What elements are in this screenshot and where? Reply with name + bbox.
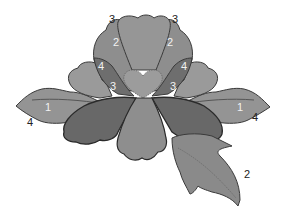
label-leaf-bottom-2: 2 (244, 168, 250, 180)
label-petal-right-2: 2 (167, 36, 173, 48)
bottom-leaf (172, 134, 240, 206)
label-side-left-4: 4 (98, 60, 104, 72)
label-inner-left-3: 3 (110, 80, 116, 92)
label-side-right-4: 4 (181, 60, 187, 72)
label-petal-left-2: 2 (113, 36, 119, 48)
label-leaf-left-1: 1 (45, 101, 51, 113)
label-top-right-3: 3 (172, 13, 178, 25)
label-inner-right-3: 3 (170, 80, 176, 92)
label-leaf-right-1: 1 (237, 101, 243, 113)
label-leaf-right-4: 4 (252, 111, 258, 123)
label-leaf-left-4: 4 (27, 116, 33, 128)
label-top-left-3: 3 (109, 13, 115, 25)
flower-diagram: 3 3 2 2 4 4 3 3 1 1 4 4 2 (0, 0, 287, 214)
